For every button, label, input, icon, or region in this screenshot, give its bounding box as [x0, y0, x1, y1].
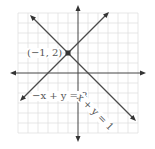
coordinate-plane — [0, 0, 155, 149]
intersection-point — [66, 51, 71, 56]
intersection-label: (−1, 2) — [27, 48, 62, 58]
